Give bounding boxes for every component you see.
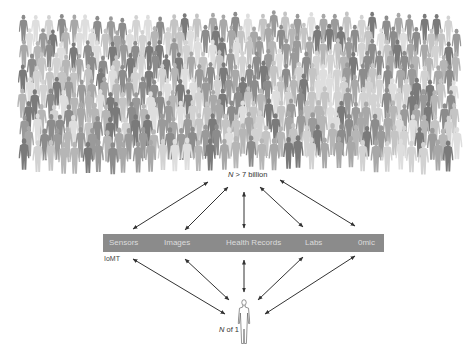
data-sources-bar: Sensors Images Health Records Labs 0mic <box>103 234 384 252</box>
bidirectional-arrows <box>0 0 470 351</box>
data-source-labs: Labs <box>305 238 322 247</box>
data-source-omic: 0mic <box>358 238 375 247</box>
data-source-health-records: Health Records <box>226 238 281 247</box>
individual-person-icon <box>236 299 252 345</box>
data-source-sensors: Sensors <box>109 238 138 247</box>
data-source-images: Images <box>164 238 190 247</box>
individual-label: N of 1 <box>219 325 239 334</box>
iomt-label: IoMT <box>104 255 120 262</box>
